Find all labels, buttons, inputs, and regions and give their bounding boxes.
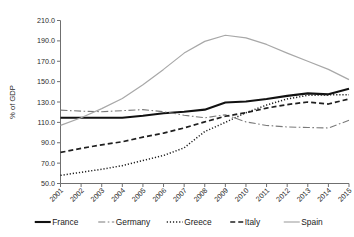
x-axis-ticks: 2001200220032004200520062007200820092010… (47, 184, 353, 204)
y-axis-ticks: 50.070.090.0110.0130.0150.0170.0190.0210… (37, 16, 61, 188)
chart-series (61, 35, 350, 175)
chart-container: % of GDP 50.070.090.0110.0130.0150.0170.… (0, 0, 354, 237)
y-tick-label: 110.0 (38, 118, 55, 127)
x-tick-label: 2009 (212, 186, 230, 204)
y-tick-label: 70.0 (41, 159, 55, 168)
x-tick-label: 2007 (171, 186, 189, 204)
y-tick-label: 170.0 (37, 57, 55, 66)
legend-label-france: France (52, 217, 78, 227)
y-tick-label: 130.0 (37, 98, 55, 107)
y-axis-label: % of GDP (8, 85, 17, 119)
x-tick-label: 2004 (109, 186, 127, 204)
legend-label-greece: Greece (184, 217, 212, 227)
x-tick-label: 2002 (68, 186, 86, 204)
x-tick-label: 2003 (89, 186, 107, 204)
y-tick-label: 210.0 (37, 16, 55, 25)
legend-label-spain: Spain (301, 217, 323, 227)
legend-label-italy: Italy (245, 217, 261, 227)
x-tick-label: 2015 (336, 186, 354, 204)
y-tick-label: 50.0 (41, 179, 55, 188)
line-chart: % of GDP 50.070.090.0110.0130.0150.0170.… (0, 0, 354, 237)
x-tick-label: 2010 (233, 186, 251, 204)
y-tick-label: 190.0 (37, 36, 55, 45)
legend-label-germany: Germany (116, 217, 151, 227)
series-line-france (61, 89, 350, 118)
y-tick-label: 150.0 (37, 77, 55, 86)
x-tick-label: 2001 (47, 186, 65, 204)
x-tick-label: 2012 (274, 186, 292, 204)
y-axis-title: % of GDP (8, 85, 17, 119)
y-tick-label: 90.0 (41, 138, 55, 147)
x-tick-label: 2011 (254, 186, 271, 203)
x-tick-label: 2005 (130, 186, 148, 204)
chart-legend: FranceGermanyGreeceItalySpain (35, 217, 323, 227)
x-tick-label: 2013 (295, 186, 313, 204)
x-tick-label: 2006 (150, 186, 168, 204)
x-tick-label: 2008 (192, 186, 210, 204)
x-tick-label: 2014 (315, 186, 333, 204)
